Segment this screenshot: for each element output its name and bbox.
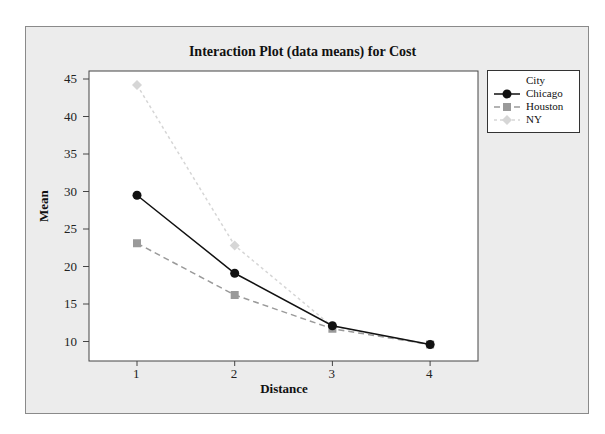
x-tick-label: 2 <box>231 366 238 382</box>
x-tick-label: 4 <box>426 366 433 382</box>
x-tick-label: 1 <box>133 366 140 382</box>
x-tick-label: 3 <box>328 366 335 382</box>
y-tick-label: 45 <box>64 71 77 87</box>
y-tick-label: 30 <box>64 184 77 200</box>
diamond-marker-icon <box>492 113 522 126</box>
y-tick-label: 10 <box>64 334 77 350</box>
y-axis-label: Mean <box>36 190 52 222</box>
legend-label: Chicago <box>526 87 563 99</box>
legend-item-ny: NY <box>488 113 581 126</box>
legend-label: Houston <box>526 100 563 112</box>
y-tick-label: 35 <box>64 146 77 162</box>
legend-item-houston: Houston <box>488 100 581 113</box>
y-tick-label: 20 <box>64 259 77 275</box>
circle-marker-icon <box>492 87 522 100</box>
x-axis-ticks <box>137 361 430 366</box>
y-tick-label: 25 <box>64 221 77 237</box>
legend-item-chicago: Chicago <box>488 87 581 100</box>
square-marker-icon <box>492 100 522 113</box>
legend: City ChicagoHoustonNY <box>487 70 580 133</box>
y-tick-label: 40 <box>64 109 77 125</box>
x-axis-label: Distance <box>0 381 568 397</box>
y-tick-label: 15 <box>64 296 77 312</box>
y-axis-ticks <box>83 79 89 342</box>
legend-label: NY <box>526 113 542 125</box>
legend-title: City <box>526 74 545 86</box>
plot-area <box>0 0 605 434</box>
